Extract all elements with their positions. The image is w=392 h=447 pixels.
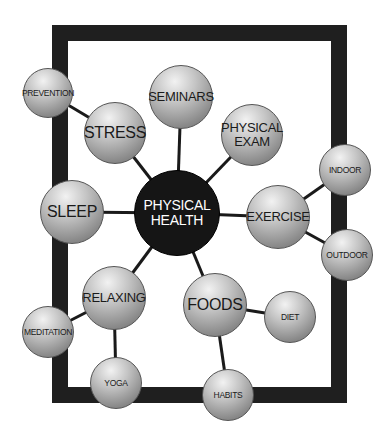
node-seminars: SEMINARS [149,65,213,129]
node-label: INDOOR [329,166,361,175]
node-stress: STRESS [84,102,146,164]
node-label: EXERCISE [246,210,309,224]
node-yoga: YOGA [90,357,142,409]
node-label: FOODS [187,297,242,314]
mind-map-diagram: PREVENTIONSTRESSSEMINARSPHYSICALEXAMINDO… [0,0,392,447]
node-habits: HABITS [202,369,254,421]
node-label: PHYSICAL [221,121,283,135]
node-physical-exam: PHYSICALEXAM [221,104,283,166]
node-outdoor: OUTDOOR [321,229,373,281]
node-label: MEDITATION [24,328,72,337]
node-label: YOGA [104,379,127,388]
node-label: SLEEP [47,204,97,221]
node-relaxing: RELAXING [82,266,146,330]
node-label: OUTDOOR [326,251,367,260]
node-label: EXAM [221,135,283,149]
node-label: PHYSICAL [144,198,211,213]
node-meditation: MEDITATION [22,306,74,358]
node-physical-health: PHYSICALHEALTH [134,170,220,256]
node-label: STRESS [84,125,146,142]
node-label: RELAXING [82,291,145,305]
node-label: HABITS [214,391,243,400]
node-indoor: INDOOR [319,144,371,196]
node-label: SEMINARS [148,90,214,104]
node-prevention: PREVENTION [23,68,73,118]
node-label: HEALTH [144,213,211,228]
node-exercise: EXERCISE [246,185,310,249]
node-diet: DIET [264,291,316,343]
node-foods: FOODS [183,273,247,337]
node-label: DIET [281,313,299,322]
node-sleep: SLEEP [40,180,104,244]
node-label: PREVENTION [22,89,74,98]
